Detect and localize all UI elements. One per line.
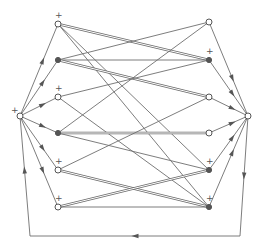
open-node-icon [55, 167, 61, 173]
edge-L4-R5 [58, 133, 209, 170]
open-node-icon [206, 130, 212, 136]
filled-node-icon [55, 57, 60, 62]
edge-L1-R5 [58, 24, 209, 170]
plus-marker: + [55, 83, 63, 93]
open-node-icon [55, 21, 61, 27]
edges-layer [58, 22, 209, 207]
node-R2: + [206, 46, 214, 63]
arrowhead-icon [229, 89, 237, 97]
hub-edge-L-L3 [20, 97, 58, 116]
arrowhead-icon [229, 74, 236, 82]
node-R3 [206, 94, 212, 100]
diagram-canvas: ++++++++ [0, 0, 263, 252]
open-node-icon [206, 94, 212, 100]
filled-node-icon [206, 57, 211, 62]
network-diagram: ++++++++ [0, 0, 263, 252]
open-node-icon [245, 113, 251, 119]
hub-edge-L-L1 [20, 24, 58, 116]
plus-marker: + [55, 193, 63, 203]
open-node-icon [55, 204, 61, 210]
plus-marker: + [206, 46, 214, 56]
node-R [245, 113, 251, 119]
node-L6: + [55, 193, 63, 210]
arrowhead-icon [39, 78, 47, 86]
arrowhead-icon [228, 119, 236, 126]
plus-marker: + [11, 105, 19, 115]
arrowhead-icon [39, 57, 46, 65]
filled-node-icon [206, 167, 211, 172]
hub-edges-layer [20, 22, 248, 207]
feedback-loop [20, 116, 248, 238]
open-node-icon [55, 94, 61, 100]
plus-marker: + [55, 156, 63, 166]
node-L5: + [55, 156, 63, 173]
hub-edge-R3-R [209, 97, 248, 116]
node-L1: + [55, 10, 63, 27]
arrowhead-icon [39, 144, 47, 152]
node-R1 [206, 19, 212, 25]
arrowhead-icon [228, 105, 236, 112]
node-R6: + [206, 193, 214, 210]
edge-L3-R6 [58, 97, 209, 207]
filled-node-icon [55, 130, 60, 135]
open-node-icon [206, 19, 212, 25]
arrowhead-icon [229, 133, 237, 141]
edge-L1-R6 [58, 24, 209, 207]
hub-edge-L-L2 [20, 60, 58, 116]
node-L4 [55, 130, 60, 135]
arrowhead-icon [39, 167, 46, 175]
plus-marker: + [206, 193, 214, 203]
arrowhead-icon [39, 101, 47, 108]
arrowhead-icon [242, 172, 247, 179]
edge-L4-R1 [58, 22, 209, 133]
plus-marker: + [55, 10, 63, 20]
node-R5: + [206, 156, 214, 173]
arrowhead-icon [132, 234, 139, 238]
arrowhead-icon [229, 148, 236, 156]
node-L2 [55, 57, 60, 62]
plus-marker: + [206, 156, 214, 166]
node-L3: + [55, 83, 63, 100]
filled-node-icon [206, 204, 211, 209]
arrowhead-icon [22, 166, 27, 173]
arrowhead-icon [39, 123, 47, 130]
node-R4 [206, 130, 212, 136]
